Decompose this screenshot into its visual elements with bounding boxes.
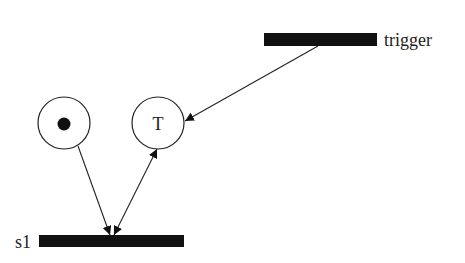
token-dot (58, 118, 71, 131)
transition-s1-label: s1 (15, 232, 31, 252)
arc-trigger-to-p2 (185, 46, 318, 121)
place-p2-label: T (153, 114, 164, 134)
transition-s1-bar (39, 235, 184, 247)
transition-trigger-bar (264, 33, 377, 46)
arc-p1-to-s1 (78, 146, 110, 235)
petri-net-diagram: trigger s1 T (0, 0, 465, 263)
arc-p2-s1-bidirectional (114, 149, 157, 235)
transition-trigger-label: trigger (384, 30, 432, 50)
